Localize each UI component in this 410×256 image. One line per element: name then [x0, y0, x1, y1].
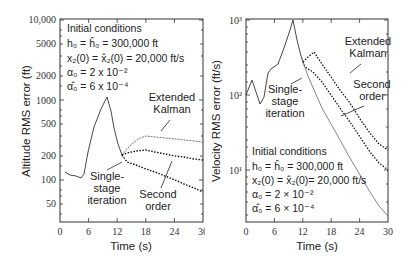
label-order: order — [359, 90, 385, 102]
initial-conditions: Initial conditions h₀ = ĥ₀ = 300,000 ft … — [252, 145, 366, 214]
y-tick-label: 10³ — [229, 15, 242, 26]
y-axis-title: Velocity RMS error (ft/s) — [210, 60, 222, 182]
arrow-extended — [161, 120, 170, 131]
condition-velocity: x₂(0) = x̂₂(0)= 20,000 ft/s — [252, 174, 366, 186]
label-single: Single- — [90, 170, 125, 182]
condition-altitude: h₀ = ĥ₀ = 300,000 ft — [252, 160, 343, 172]
y-tick-label: 5000 — [36, 38, 56, 49]
label-second: Second — [353, 78, 390, 90]
altitude-error-chart: 10,000 5000 2000 1000 500 200 100 50 0 6… — [0, 0, 205, 256]
shared-curve — [65, 97, 122, 178]
label-order: order — [145, 200, 171, 212]
label-iteration: iteration — [265, 107, 304, 119]
x-tick-label: 12 — [298, 226, 308, 237]
velocity-error-chart: 10³ 10² 10¹ 0 6 12 18 24 30 Time (s) Vel… — [205, 0, 410, 256]
label-stage: stage — [272, 95, 299, 107]
condition-alpha-hat: α̂₀ = 6 × 10⁻⁴ — [252, 202, 314, 214]
y-tick-label: 10¹ — [229, 165, 242, 176]
y-tick-labels: 10,000 5000 2000 1000 500 200 100 50 — [29, 14, 57, 209]
conditions-title: Initial conditions — [252, 145, 327, 157]
y-ticks — [60, 20, 203, 214]
condition-alpha-hat: α̂₀ = 6 x 10⁻⁴ — [67, 80, 129, 92]
x-tick-label: 0 — [244, 226, 249, 237]
condition-alpha: α₀ = 2 x 10⁻² — [67, 66, 128, 78]
conditions-title: Initial conditions — [67, 22, 142, 34]
condition-velocity: x₂(0) = x̂₂(0) = 20,000 ft/s — [67, 52, 184, 64]
label-kalman: Kalman — [349, 47, 386, 59]
y-tick-label: 100 — [41, 174, 56, 185]
x-axis-title: Time (s) — [110, 240, 152, 252]
velocity-chart-svg: 10³ 10² 10¹ 0 6 12 18 24 30 Time (s) Vel… — [205, 0, 410, 256]
x-tick-label: 6 — [272, 226, 277, 237]
arrow-single — [107, 162, 122, 170]
plot-frame — [60, 19, 203, 222]
label-extended: Extended — [345, 35, 391, 47]
extended-kalman-curve — [122, 136, 203, 155]
arrow-extended — [350, 64, 361, 73]
x-tick-label: 12 — [112, 226, 122, 237]
single-stage-curve — [122, 155, 203, 192]
altitude-chart-svg: 10,000 5000 2000 1000 500 200 100 50 0 6… — [0, 0, 205, 256]
label-extended: Extended — [149, 91, 195, 103]
y-tick-label: 2000 — [36, 70, 56, 81]
y-tick-label: 200 — [41, 150, 56, 161]
label-single: Single- — [268, 83, 303, 95]
initial-conditions: Initial conditions h₀ = ĥ₀ = 300,000 ft … — [67, 22, 184, 92]
y-tick-label: 500 — [41, 118, 56, 129]
label-second: Second — [139, 188, 176, 200]
x-tick-label: 24 — [169, 226, 179, 237]
y-tick-label: 10² — [229, 90, 242, 101]
y-tick-label: 1000 — [36, 95, 56, 106]
label-kalman: Kalman — [153, 103, 190, 115]
label-stage: stage — [94, 182, 121, 194]
x-tick-labels: 0 6 12 18 24 30 — [244, 226, 394, 237]
x-tick-label: 18 — [326, 226, 336, 237]
y-tick-labels: 10³ 10² 10¹ — [229, 15, 242, 176]
second-order-curve — [122, 150, 203, 160]
y-tick-label: 50 — [46, 198, 56, 209]
y-axis-title: Altitude RMS error (ft) — [20, 65, 32, 177]
x-tick-label: 30 — [383, 226, 393, 237]
x-tick-label: 6 — [86, 226, 91, 237]
condition-altitude: h₀ = ĥ₀ = 300,000 ft — [67, 37, 158, 49]
x-tick-label: 18 — [141, 226, 151, 237]
x-tick-label: 0 — [58, 226, 63, 237]
label-iteration: iteration — [87, 194, 126, 206]
y-tick-label: 10,000 — [29, 14, 57, 25]
condition-alpha: α₀ = 2 × 10⁻² — [252, 188, 314, 200]
x-axis-title: Time (s) — [296, 240, 338, 252]
x-tick-label: 30 — [198, 226, 205, 237]
x-tick-label: 24 — [355, 226, 365, 237]
x-tick-labels: 0 6 12 18 24 30 — [58, 226, 206, 237]
